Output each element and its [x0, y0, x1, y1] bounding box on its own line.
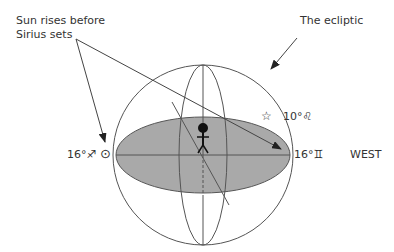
- sirius-star-icon: ☆: [261, 110, 272, 123]
- right-point-label: 16°♊: [294, 148, 323, 161]
- sun-rises-label-line1: Sun rises before: [16, 14, 105, 27]
- sun-rises-label-line2: Sirius sets: [16, 28, 72, 41]
- west-label: WEST: [350, 148, 382, 161]
- pointer-to-ecliptic: [271, 38, 297, 69]
- ecliptic-label: The ecliptic: [300, 14, 363, 27]
- sun-icon: ⊙: [100, 147, 111, 160]
- star-position-label: 10°♌: [283, 110, 312, 123]
- pointer-to-sun: [76, 39, 105, 142]
- left-point-label: 16°♐: [67, 148, 96, 161]
